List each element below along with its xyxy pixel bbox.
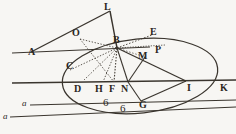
label-six-left: 6 <box>103 97 109 108</box>
label-K: K <box>220 83 228 93</box>
diagram-canvas <box>0 0 236 134</box>
label-six-right: 6 <box>120 103 126 114</box>
line-al <box>31 11 110 52</box>
line-gi <box>141 81 186 101</box>
label-N: N <box>121 84 128 94</box>
geometry-diagram: A L O B E P M C D H F N G I K a a 6 6 <box>0 0 236 134</box>
label-C: C <box>66 61 73 71</box>
line-bf-dotted <box>114 48 117 82</box>
label-I: I <box>187 83 191 93</box>
line-lower-1 <box>30 100 236 105</box>
label-L: L <box>104 2 111 12</box>
label-F: F <box>109 84 115 94</box>
label-G: G <box>139 100 147 110</box>
line-of-dotted <box>80 39 114 82</box>
label-M: M <box>138 51 147 61</box>
label-a-lower: a <box>3 112 8 121</box>
label-O: O <box>72 28 80 38</box>
label-B: B <box>113 35 120 45</box>
line-bi <box>117 48 186 81</box>
label-a-upper: a <box>22 99 27 108</box>
label-D: D <box>74 84 81 94</box>
label-E: E <box>150 27 157 37</box>
label-P: P <box>155 45 161 55</box>
point-b-marker <box>115 46 118 49</box>
label-A: A <box>28 47 35 57</box>
label-H: H <box>95 84 103 94</box>
